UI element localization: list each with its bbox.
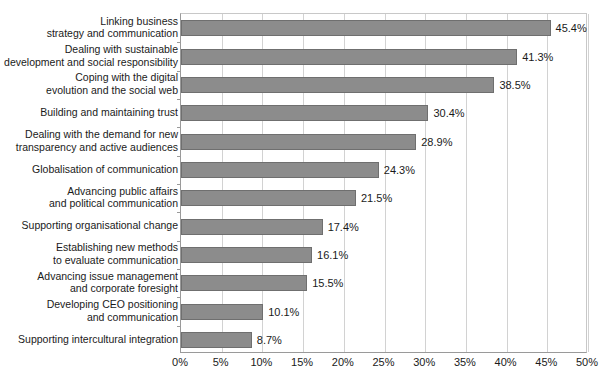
category-axis-tick: [177, 99, 181, 100]
gridline: [262, 14, 263, 352]
category-label: Developing CEO positioning and communica…: [3, 298, 178, 323]
x-tick-label: 35%: [454, 356, 476, 368]
bar: [181, 49, 517, 65]
x-tick-label: 10%: [250, 356, 272, 368]
bar: [181, 105, 428, 121]
plot-area: 45.4%41.3%38.5%30.4%28.9%24.3%21.5%17.4%…: [180, 13, 587, 353]
bar: [181, 77, 494, 93]
category-label: Advancing issue management and corporate…: [3, 270, 178, 295]
bar-value-label: 30.4%: [433, 108, 464, 119]
gridline: [547, 14, 548, 352]
category-label: Supporting organisational change: [3, 219, 178, 232]
bar-value-label: 24.3%: [384, 165, 415, 176]
bar-value-label: 16.1%: [317, 250, 348, 261]
x-tick-label: 15%: [291, 356, 313, 368]
x-tick-label: 5%: [213, 356, 229, 368]
gridline: [344, 14, 345, 352]
x-tick-label: 20%: [332, 356, 354, 368]
category-axis-tick: [177, 184, 181, 185]
bar: [181, 162, 379, 178]
category-axis-tick: [177, 326, 181, 327]
x-tick-label: 0%: [172, 356, 188, 368]
category-axis-tick: [177, 127, 181, 128]
category-label: Dealing with sustainable development and…: [3, 43, 178, 68]
bar-value-label: 41.3%: [522, 52, 553, 63]
category-label: Dealing with the demand for new transpar…: [3, 128, 178, 153]
category-axis-tick: [177, 241, 181, 242]
bar-value-label: 8.7%: [257, 335, 282, 346]
bar-value-label: 15.5%: [312, 278, 343, 289]
gridline: [222, 14, 223, 352]
bar-value-label: 38.5%: [499, 80, 530, 91]
bar-value-label: 45.4%: [556, 23, 587, 34]
bar: [181, 304, 263, 320]
category-label: Supporting intercultural integration: [3, 333, 178, 346]
category-axis-labels: Linking business strategy and communicat…: [0, 13, 178, 353]
category-label: Building and maintaining trust: [3, 106, 178, 119]
gridline: [425, 14, 426, 352]
bar-chart: Linking business strategy and communicat…: [0, 0, 615, 383]
x-tick-label: 45%: [535, 356, 557, 368]
x-tick-label: 30%: [413, 356, 435, 368]
gridline: [303, 14, 304, 352]
gridline: [385, 14, 386, 352]
gridline: [466, 14, 467, 352]
bar: [181, 332, 252, 348]
category-label: Linking business strategy and communicat…: [3, 15, 178, 40]
x-tick-label: 50%: [576, 356, 598, 368]
category-axis-tick: [177, 212, 181, 213]
bar: [181, 190, 356, 206]
bar: [181, 20, 551, 36]
category-axis-tick: [177, 297, 181, 298]
bar: [181, 219, 323, 235]
bar-value-label: 21.5%: [361, 193, 392, 204]
bar-value-label: 17.4%: [328, 222, 359, 233]
category-label: Coping with the digital evolution and th…: [3, 71, 178, 96]
gridline: [507, 14, 508, 352]
bar: [181, 247, 312, 263]
x-tick-label: 25%: [372, 356, 394, 368]
x-tick-label: 40%: [495, 356, 517, 368]
category-label: Globalisation of communication: [3, 163, 178, 176]
category-axis-tick: [177, 156, 181, 157]
category-axis-tick: [177, 42, 181, 43]
gridline: [588, 14, 589, 352]
bar-value-label: 10.1%: [268, 307, 299, 318]
category-label: Establishing new methods to evaluate com…: [3, 241, 178, 266]
bar: [181, 275, 307, 291]
bar: [181, 134, 416, 150]
category-axis-tick: [177, 71, 181, 72]
category-label: Advancing public affairs and political c…: [3, 185, 178, 210]
value-axis-labels: 0%5%10%15%20%25%30%35%40%45%50%: [180, 356, 587, 376]
bar-value-label: 28.9%: [421, 137, 452, 148]
category-axis-tick: [177, 269, 181, 270]
